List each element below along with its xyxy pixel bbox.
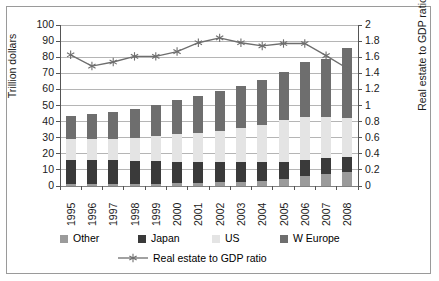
bar-segment-japan (215, 162, 225, 182)
legend-label: W Europe (293, 232, 340, 244)
bar-segment-other (130, 184, 140, 186)
legend-item-japan[interactable]: Japan (138, 228, 180, 246)
y2-tick-label: 1.2 (365, 83, 397, 93)
bar-segment-w-europe (279, 72, 289, 120)
bar-segment-japan (108, 160, 118, 184)
bar-segment-w-europe (321, 59, 331, 117)
bar-segment-w-europe (87, 114, 97, 139)
y2-tick-label: 1.8 (365, 35, 397, 45)
x-tick-label: 1995 (66, 192, 76, 226)
bar-segment-other (215, 182, 225, 186)
legend-line-marker-icon (118, 252, 148, 264)
bar-segment-w-europe (236, 86, 246, 128)
bar-segment-us (342, 118, 352, 157)
y-tick-label: 20 (18, 148, 54, 158)
bar-segment-japan (66, 160, 76, 184)
x-tick-label: 2008 (342, 192, 352, 226)
bar-segment-us (279, 120, 289, 162)
bar-segment-japan (130, 161, 140, 185)
bar-segment-japan (87, 160, 97, 184)
y-tick-label: 90 (18, 35, 54, 45)
y2-tick-label: 0.6 (365, 132, 397, 142)
bar-segment-us (66, 139, 76, 160)
x-tick-label: 2004 (257, 192, 267, 226)
bar-segment-us (236, 128, 246, 162)
y2-tick-label: 2 (365, 19, 397, 29)
legend-swatch-icon (60, 235, 68, 243)
bar-segment-japan (193, 162, 203, 183)
bar-segment-us (151, 136, 161, 161)
legend-swatch-icon (280, 235, 288, 243)
bar-segment-w-europe (193, 96, 203, 133)
bar-segment-us (130, 138, 140, 161)
bar-segment-w-europe (300, 62, 310, 117)
bar-segment-other (87, 184, 97, 186)
bar-segment-japan (279, 162, 289, 180)
ratio-line-marker (322, 51, 329, 59)
y-tick-label: 40 (18, 116, 54, 126)
bar-segment-w-europe (342, 48, 352, 119)
x-tick-label: 2006 (300, 192, 310, 226)
y-axis-left-title: Trillion dollars (6, 0, 18, 136)
y2-tick-label: 0.8 (365, 116, 397, 126)
y-tick-label: 100 (18, 19, 54, 29)
x-tick-label: 1997 (108, 192, 118, 226)
bar-segment-japan (151, 161, 161, 184)
legend-label: Japan (151, 232, 180, 244)
legend-line: Real estate to GDP ratio (118, 248, 267, 266)
bar-segment-other (236, 182, 246, 186)
bar-segment-us (321, 117, 331, 159)
bar-segment-other (193, 183, 203, 186)
x-tick-label: 1999 (151, 192, 161, 226)
bar-segment-us (257, 125, 267, 162)
legend-item-other[interactable]: Other (60, 228, 99, 246)
bar-segment-japan (236, 162, 246, 182)
x-tick-label: 1996 (87, 192, 97, 226)
bar-segment-w-europe (108, 112, 118, 139)
legend-item-us[interactable]: US (212, 228, 240, 246)
bar-segment-w-europe (66, 116, 76, 139)
bar-segment-w-europe (130, 109, 140, 138)
bar-segment-us (215, 131, 225, 162)
y-tick-label: 60 (18, 83, 54, 93)
x-tick-label: 2003 (236, 192, 246, 226)
y2-tick-label: 1.6 (365, 51, 397, 61)
bar-segment-us (87, 139, 97, 160)
bar-segment-other (300, 176, 310, 186)
bar-segment-w-europe (257, 80, 267, 125)
legend-item-w-europe[interactable]: W Europe (280, 228, 340, 246)
bar-segment-w-europe (215, 91, 225, 131)
bar-segment-other (151, 184, 161, 186)
bar-segment-other (279, 179, 289, 186)
bar-segment-w-europe (151, 105, 161, 137)
y2-tick-label: 1.4 (365, 67, 397, 77)
bar-segment-us (300, 117, 310, 160)
y-tick-label: 0 (18, 180, 54, 190)
legend-line-label: Real estate to GDP ratio (153, 252, 267, 264)
x-tick-label: 2000 (172, 192, 182, 226)
y-tick-label: 30 (18, 132, 54, 142)
x-tick-label: 2002 (215, 192, 225, 226)
y2-tick-label: 0.2 (365, 164, 397, 174)
y2-tick-label: 0.4 (365, 148, 397, 158)
x-tick-label: 2007 (321, 192, 331, 226)
bar-segment-us (108, 139, 118, 161)
x-tick-label: 2001 (193, 192, 203, 226)
bar-segment-japan (321, 158, 331, 173)
bar-segment-other (172, 183, 182, 186)
legend-swatch-icon (138, 235, 146, 243)
legend-label: Other (73, 232, 99, 244)
y-axis-right-title: Real estate to GDP ratio (416, 0, 428, 124)
bar-segment-other (257, 181, 267, 186)
ratio-line-marker (67, 51, 74, 59)
bar-segment-other (342, 172, 352, 186)
bar-segment-japan (172, 162, 182, 184)
bar-segment-us (172, 134, 182, 161)
y-tick-label: 50 (18, 100, 54, 110)
bar-segment-japan (257, 162, 267, 181)
bar-segment-japan (300, 160, 310, 176)
y-tick-label: 10 (18, 164, 54, 174)
x-tick-label: 2005 (279, 192, 289, 226)
y2-tick-label: 1 (365, 100, 397, 110)
bar-segment-us (193, 133, 203, 162)
